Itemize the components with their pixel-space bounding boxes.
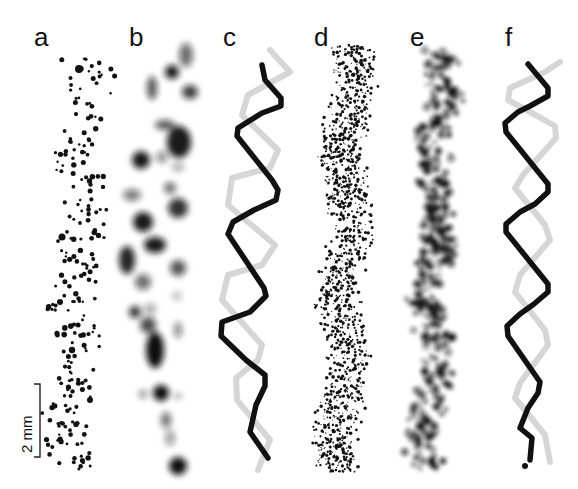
panel-c-helix bbox=[221, 50, 290, 470]
panel-f-dark-strand bbox=[505, 64, 548, 460]
panel-a-dots bbox=[40, 57, 117, 470]
figure: a b c d e f 2 mm bbox=[0, 0, 578, 489]
panel-d-speckle bbox=[311, 44, 379, 473]
panel-e-blurred-speckle bbox=[401, 46, 465, 471]
panel-f-end-dot bbox=[522, 463, 528, 469]
scale-bar bbox=[34, 384, 40, 457]
figure-graphics bbox=[0, 0, 578, 489]
panel-f-helix bbox=[505, 62, 560, 469]
panel-b-blobs bbox=[119, 43, 198, 475]
